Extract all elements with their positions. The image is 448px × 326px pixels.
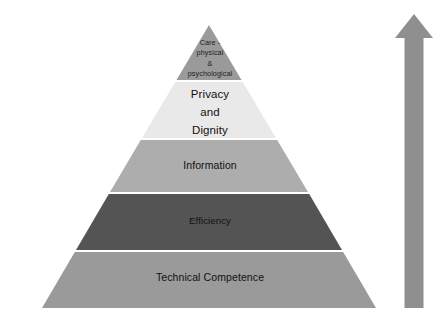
- pyramid-tier-5-shape: [42, 252, 376, 308]
- pyramid-tier-1-shape: [177, 25, 242, 80]
- figure-canvas: Care - physical & psychological Privacy …: [0, 0, 448, 326]
- pyramid-tier-3-shape: [110, 140, 308, 192]
- figure-caption: [2, 316, 302, 326]
- pyramid-tier-4-shape: [76, 194, 342, 250]
- pyramid-shapes: [0, 0, 448, 326]
- pyramid-tier-2-shape: [142, 82, 276, 138]
- upward-arrow-icon: [395, 14, 433, 308]
- pyramid-diagram: Care - physical & psychological Privacy …: [0, 0, 448, 326]
